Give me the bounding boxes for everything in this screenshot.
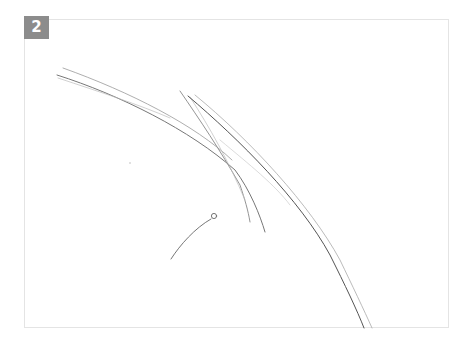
sketch-stroke-right-arc-1 [188, 96, 364, 328]
sketch-faint-dot [129, 162, 131, 164]
pencil-sketch [0, 0, 469, 352]
sketch-stroke-small [171, 219, 211, 259]
sketch-small-circle [211, 213, 216, 218]
sketch-stroke-right-arc-2 [195, 95, 372, 328]
sketch-stroke-upper-arc-2 [63, 68, 232, 160]
sketch-stroke-z-diagonal-2 [190, 97, 245, 200]
sketch-stroke-upper-arc-1 [57, 75, 265, 232]
sketch-stroke-upper-arc-3 [58, 78, 170, 118]
